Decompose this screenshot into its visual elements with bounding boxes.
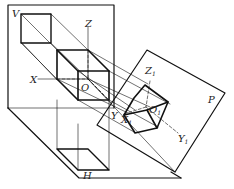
label-x1: X1 bbox=[120, 114, 132, 126]
label-y1: Y1 bbox=[178, 133, 188, 145]
h-projection-rect bbox=[57, 149, 109, 170]
h-plane-outline bbox=[8, 108, 181, 178]
label-z: Z bbox=[84, 18, 93, 29]
v-plane-outline bbox=[8, 5, 114, 108]
label-z1: Z1 bbox=[144, 65, 156, 77]
label-p-plane: P bbox=[207, 94, 215, 105]
label-y: Y bbox=[111, 110, 119, 121]
projection-diagram: V Z X O Y H P X1 Z1 O1 Y1 bbox=[0, 0, 234, 189]
label-o: O bbox=[81, 82, 89, 93]
p-plane-h-trace bbox=[171, 172, 181, 178]
label-h-plane: H bbox=[82, 170, 92, 181]
label-v-plane: V bbox=[12, 8, 21, 19]
label-x: X bbox=[29, 74, 38, 85]
